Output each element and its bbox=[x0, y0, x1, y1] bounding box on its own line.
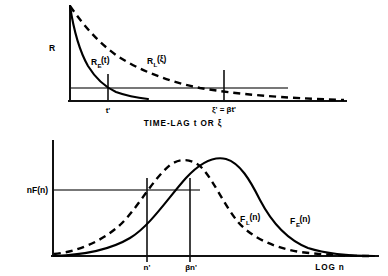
bottom-y-axis-label: nF(n) bbox=[27, 185, 48, 195]
bottom-curve-label-lagrangian-base: F bbox=[240, 214, 245, 224]
top-curve-label-eulerian-arg: (t) bbox=[101, 55, 110, 65]
figure-container: R R E (t) R L (ξ) t' ξ' = βt' TIME-LAG t… bbox=[0, 0, 388, 276]
top-tick-label-xi-prime: ξ' = βt' bbox=[212, 105, 236, 114]
top-y-axis-label: R bbox=[49, 43, 55, 53]
bottom-x-axis-title: LOG n bbox=[315, 263, 345, 272]
curve-R-L-xi bbox=[70, 6, 344, 100]
bottom-panel: nF(n) F L (n) F E (n) n' βn' LOG n bbox=[27, 141, 378, 272]
bottom-curve-label-lagrangian: F L (n) bbox=[240, 212, 261, 226]
top-tick-label-t-prime: t' bbox=[106, 106, 111, 115]
curve-F-E-n bbox=[54, 158, 374, 256]
top-curve-label-eulerian-base: R bbox=[91, 57, 97, 67]
top-curve-label-lagrangian-base: R bbox=[147, 56, 153, 66]
top-panel: R R E (t) R L (ξ) t' ξ' = βt' TIME-LAG t… bbox=[49, 6, 346, 128]
top-curve-label-lagrangian-arg: (ξ) bbox=[157, 54, 167, 64]
bottom-tick-label-beta-n-prime: βn' bbox=[185, 263, 197, 272]
curve-F-L-n bbox=[54, 160, 372, 256]
bottom-curve-label-eulerian-arg: (n) bbox=[300, 214, 311, 224]
figure-svg: R R E (t) R L (ξ) t' ξ' = βt' TIME-LAG t… bbox=[0, 0, 388, 276]
bottom-curve-label-eulerian-base: F bbox=[290, 216, 295, 226]
top-curve-label-eulerian: R E (t) bbox=[91, 55, 110, 69]
bottom-curve-label-lagrangian-arg: (n) bbox=[250, 212, 261, 222]
bottom-curve-label-eulerian: F E (n) bbox=[290, 214, 311, 228]
top-curve-label-lagrangian: R L (ξ) bbox=[147, 54, 167, 68]
top-x-axis-title: TIME-LAG t OR ξ bbox=[144, 119, 223, 128]
bottom-tick-label-n-prime: n' bbox=[144, 263, 151, 272]
